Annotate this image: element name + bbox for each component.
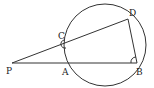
geometry-diagram: P A B C D [0, 0, 154, 88]
label-d: D [129, 8, 136, 18]
label-a: A [61, 67, 69, 77]
angle-mark-b [131, 57, 136, 63]
label-c: C [58, 31, 65, 41]
label-b: B [136, 67, 143, 77]
label-p: P [6, 66, 12, 76]
segment-db [128, 19, 137, 63]
segment-pd [12, 19, 128, 63]
